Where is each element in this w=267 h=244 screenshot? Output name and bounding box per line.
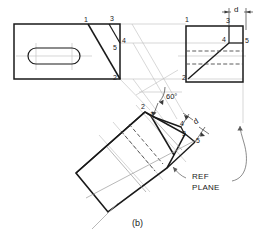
front-view-label-4: 4 — [122, 37, 126, 44]
front-view-cut-diagonal — [88, 24, 120, 79]
figure-root: 1 3 4 5 2 1 3 4 5 2 2 1 4 3 5 d d 60° RE… — [0, 0, 267, 244]
aux-view-label-1: 1 — [150, 111, 154, 118]
projector-aux-d — [120, 79, 150, 110]
ref-plane-leader-long — [232, 126, 246, 181]
front-view-label-5: 5 — [113, 44, 117, 51]
aux-view-body-left-edge — [76, 112, 145, 173]
side-view-label-3: 3 — [226, 17, 230, 24]
front-view-label-1: 1 — [84, 16, 88, 23]
aux-view-label-5: 5 — [196, 137, 200, 144]
front-view-group — [14, 24, 120, 79]
center-lines-group — [16, 43, 246, 192]
front-view-label-2: 2 — [113, 74, 117, 81]
front-view-label-3: 3 — [110, 15, 114, 22]
depth-arrow-left — [225, 10, 230, 13]
side-view-label-4: 4 — [222, 36, 226, 43]
ref-plane-label-line2: PLANE — [192, 184, 220, 192]
angle-arrow-head — [159, 100, 164, 105]
side-view-label-2: 2 — [182, 74, 186, 81]
side-view-edge-2-4 — [188, 43, 229, 79]
side-view-label-1: 1 — [185, 16, 189, 23]
auxiliary-view-group — [76, 112, 196, 229]
technical-drawing-canvas — [0, 0, 267, 244]
aux-view-label-2: 2 — [141, 103, 145, 110]
figure-caption: (b) — [132, 219, 143, 228]
depth-aux-arrow-right — [200, 132, 205, 137]
ref-plane-label-line1: REF — [192, 173, 209, 181]
aux-view-label-3: 3 — [182, 130, 186, 137]
angle-label: 60° — [166, 93, 177, 101]
front-view-edge-3-4 — [109, 24, 120, 43]
side-view-group — [186, 26, 243, 82]
aux-edge-right-lower — [167, 142, 195, 168]
aux-view-outline — [76, 112, 185, 212]
depth-label-top: d — [234, 6, 238, 14]
projector-aux-a — [133, 43, 177, 119]
aux-fold-extension — [92, 203, 118, 229]
aux-slot-center-a — [99, 135, 150, 192]
depth-arrow-right — [246, 10, 251, 13]
aux-view-label-4: 4 — [180, 120, 184, 127]
side-view-label-5: 5 — [245, 37, 249, 44]
ref-plane-leader-long-arrow — [237, 126, 242, 131]
